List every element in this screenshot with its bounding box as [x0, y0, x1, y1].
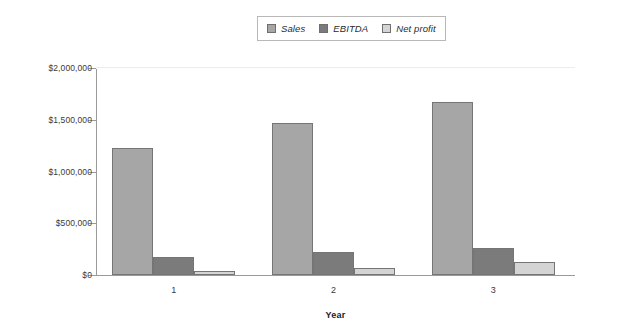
legend-entry[interactable]: EBITDA: [319, 23, 368, 34]
x-tick-label: 3: [491, 285, 496, 295]
bar[interactable]: [432, 102, 473, 275]
bar[interactable]: [473, 248, 514, 275]
bar[interactable]: [194, 271, 235, 275]
x-tick-label: 1: [171, 285, 176, 295]
bar[interactable]: [112, 148, 153, 275]
y-axis-line: [96, 69, 97, 276]
y-tick-label: $0: [82, 270, 92, 280]
legend-entry[interactable]: Net profit: [382, 23, 436, 34]
chart-legend: SalesEBITDANet profit: [257, 16, 446, 41]
legend-entry[interactable]: Sales: [267, 23, 305, 34]
y-tick-label: $1,000,000: [48, 167, 92, 177]
y-tick-label: $2,000,000: [48, 63, 92, 73]
x-axis-title: Year: [96, 310, 575, 320]
x-tick-label: 2: [331, 285, 336, 295]
bar[interactable]: [272, 123, 313, 275]
legend-swatch-icon: [382, 24, 391, 33]
legend-label: EBITDA: [333, 23, 368, 34]
legend-label: Net profit: [396, 23, 436, 34]
bar[interactable]: [514, 262, 555, 275]
bar[interactable]: [313, 252, 354, 275]
gridline: [96, 67, 575, 68]
bar[interactable]: [354, 268, 395, 275]
bar[interactable]: [153, 257, 194, 275]
bar-chart: SalesEBITDANet profit $0$500,000$1,000,0…: [0, 0, 630, 333]
x-axis-line: [88, 275, 575, 276]
legend-swatch-icon: [319, 24, 328, 33]
legend-label: Sales: [281, 23, 305, 34]
y-tick-label: $1,500,000: [48, 115, 92, 125]
plot-area: $0$500,000$1,000,000$1,500,000$2,000,000…: [96, 63, 575, 276]
legend-swatch-icon: [267, 24, 276, 33]
y-tick-label: $500,000: [56, 218, 92, 228]
